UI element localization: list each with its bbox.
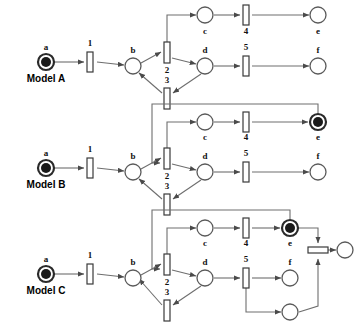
place-e[interactable] xyxy=(310,7,326,23)
arc-t1-to-b xyxy=(97,274,124,277)
transition-2[interactable] xyxy=(164,254,170,275)
arc-t3-to-b xyxy=(139,179,162,199)
transition-4[interactable] xyxy=(243,112,249,132)
arc-d-to-t3 xyxy=(173,74,201,93)
place-a[interactable] xyxy=(38,54,54,70)
place-c[interactable] xyxy=(197,7,213,23)
transition-1[interactable] xyxy=(87,52,93,72)
model-a-title: Model A xyxy=(27,73,66,84)
place-c[interactable] xyxy=(197,114,213,130)
place-b[interactable] xyxy=(125,58,141,74)
transition-1-label: 1 xyxy=(88,38,93,48)
model-b-title: Model B xyxy=(27,179,66,190)
place-b[interactable] xyxy=(125,270,141,286)
transition-5[interactable] xyxy=(243,56,249,76)
model-b-group: a Model B b c d e f 1 2 3 4 5 xyxy=(27,104,326,215)
place-d[interactable] xyxy=(197,58,213,74)
transition-4-label: 4 xyxy=(244,238,249,248)
transition-3-label: 3 xyxy=(165,181,170,191)
transition-5-label: 5 xyxy=(244,148,249,158)
arc-b-to-t2 xyxy=(141,52,161,63)
transition-4-label: 4 xyxy=(244,26,249,36)
place-e-label: e xyxy=(288,238,292,248)
place-a-label: a xyxy=(44,148,49,158)
place-a[interactable] xyxy=(38,160,54,176)
transition-4[interactable] xyxy=(243,5,249,25)
transition-3[interactable] xyxy=(164,88,170,109)
arc-t2-to-c xyxy=(167,122,196,148)
place-b-label: b xyxy=(130,151,135,161)
petri-net-diagram: a Model A b c d e f 1 2 3 4 5 xyxy=(0,0,357,329)
arc-t5-to-place-g xyxy=(246,288,281,312)
arc-t2-to-c xyxy=(167,15,196,42)
arc-e-to-t2-feedback xyxy=(152,210,290,269)
place-a-label: a xyxy=(44,42,49,52)
place-c-label: c xyxy=(203,238,207,248)
place-e-label: e xyxy=(316,26,320,36)
place-f[interactable] xyxy=(282,270,298,286)
diagram-canvas: a Model A b c d e f 1 2 3 4 5 xyxy=(0,0,357,329)
model-a-group: a Model A b c d e f 1 2 3 4 5 xyxy=(27,5,326,109)
arc-place-g-to-t6 xyxy=(299,259,318,312)
transition-1[interactable] xyxy=(87,158,93,178)
arc-t1-to-b xyxy=(97,168,124,171)
place-a-label: a xyxy=(44,254,49,264)
place-b[interactable] xyxy=(125,164,141,180)
place-h[interactable] xyxy=(337,242,353,258)
arc-t2-to-d xyxy=(172,270,196,276)
model-c-title: Model C xyxy=(27,285,66,296)
transition-1[interactable] xyxy=(87,264,93,284)
place-a[interactable] xyxy=(38,266,54,282)
place-c[interactable] xyxy=(197,220,213,236)
arc-t2-to-c xyxy=(167,228,196,254)
arc-e-to-t6 xyxy=(299,228,318,243)
arc-t3-to-b xyxy=(139,73,162,93)
arc-t2-to-d xyxy=(172,58,196,64)
transition-2[interactable] xyxy=(164,148,170,169)
place-b-label: b xyxy=(130,45,135,55)
transition-5[interactable] xyxy=(243,268,249,288)
transition-5[interactable] xyxy=(243,162,249,182)
place-c-label: c xyxy=(203,132,207,142)
place-f[interactable] xyxy=(310,164,326,180)
place-g[interactable] xyxy=(282,304,298,320)
transition-6[interactable] xyxy=(308,247,328,253)
arc-t1-to-b xyxy=(97,62,124,65)
transition-3-label: 3 xyxy=(165,75,170,85)
place-d-label: d xyxy=(202,45,207,55)
place-f[interactable] xyxy=(310,58,326,74)
transition-3-label: 3 xyxy=(165,287,170,297)
transition-4[interactable] xyxy=(243,218,249,238)
place-f-label: f xyxy=(289,257,293,267)
place-d-label: d xyxy=(202,257,207,267)
place-c-label: c xyxy=(203,26,207,36)
transition-2[interactable] xyxy=(164,42,170,63)
place-f-label: f xyxy=(317,151,321,161)
arc-t3-to-b xyxy=(139,279,162,305)
place-d-label: d xyxy=(202,151,207,161)
place-f-label: f xyxy=(317,45,321,55)
place-b-label: b xyxy=(130,257,135,267)
transition-3[interactable] xyxy=(164,194,170,215)
transition-3[interactable] xyxy=(164,300,170,321)
transition-5-label: 5 xyxy=(244,42,249,52)
arc-t2-to-d xyxy=(172,164,196,170)
transition-4-label: 4 xyxy=(244,132,249,142)
place-d[interactable] xyxy=(197,164,213,180)
model-c-group: a Model C b c d e f 1 2 3 4 xyxy=(27,210,353,321)
arc-d-to-t3 xyxy=(173,286,201,305)
transition-2-label: 2 xyxy=(165,65,170,75)
arc-e-to-t2-feedback xyxy=(152,104,318,163)
transition-5-label: 5 xyxy=(244,254,249,264)
place-e[interactable] xyxy=(310,114,326,130)
place-d[interactable] xyxy=(197,270,213,286)
transition-1-label: 1 xyxy=(88,250,93,260)
place-e[interactable] xyxy=(282,220,298,236)
transition-2-label: 2 xyxy=(165,171,170,181)
transition-1-label: 1 xyxy=(88,144,93,154)
transition-2-label: 2 xyxy=(165,277,170,287)
place-e-label: e xyxy=(316,132,320,142)
arc-d-to-t3 xyxy=(173,180,201,199)
